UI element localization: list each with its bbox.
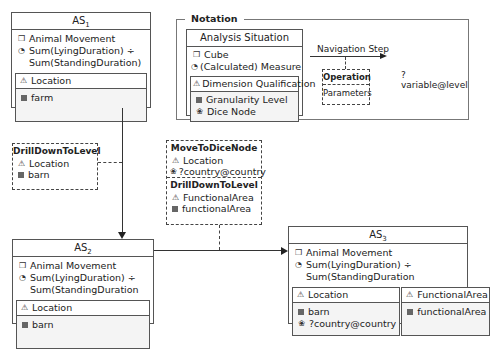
- cube-label: Animal Movement: [306, 247, 392, 259]
- operation-label: DrillDownToLevel: [167, 178, 261, 192]
- param-level: functionalArea: [182, 203, 251, 214]
- nav-step-label: Navigation Step: [317, 44, 389, 54]
- measure-icon: ◔: [191, 61, 198, 73]
- dimension-qualification: ⚠Location barn ❀?country@country: [292, 287, 400, 336]
- step-connector: [219, 225, 220, 250]
- granularity-icon: [172, 206, 178, 212]
- dimension-icon: ⚠: [295, 288, 306, 302]
- notation-as-box: Analysis Situation ❒Cube ◔(Calculated) M…: [186, 29, 303, 116]
- measure-label: Sum(LyingDuration) ÷: [306, 259, 412, 271]
- arrowhead: [281, 247, 288, 255]
- dice-label: Dice Node: [207, 106, 256, 118]
- dimension-icon: ⚠: [16, 158, 27, 169]
- navigation-step-drilldown: DrillDownToLevel ⚠Location barn: [12, 143, 98, 190]
- dimension-qualification: ⚠FunctionalArea functionalArea: [401, 287, 490, 336]
- cube-icon: ❒: [17, 260, 28, 272]
- measure-label: Sum(LyingDuration) ÷: [29, 45, 135, 57]
- analysis-situation-as3: AS3 ❒Animal Movement ◔Sum(LyingDuration)…: [288, 226, 468, 324]
- parameters-label: Parameters: [323, 85, 369, 101]
- dimension-name: FunctionalArea: [417, 288, 488, 302]
- granularity-level: functionalArea: [417, 306, 486, 318]
- measure-label-cont: Sum(StandingDuration: [30, 284, 139, 296]
- measure-icon: ◔: [16, 45, 27, 57]
- notation-step-box: Operation Parameters: [322, 69, 370, 105]
- operation-label: Operation: [323, 70, 369, 84]
- nav-arrow-as2-as3: [154, 250, 282, 251]
- dimension-name: Location: [31, 74, 71, 88]
- granularity-icon: [407, 309, 413, 315]
- cube-icon: ❒: [191, 49, 202, 61]
- navigation-step-multi: MoveToDiceNode ⚠Location ❀?country@count…: [166, 140, 262, 225]
- granularity-level: barn: [32, 319, 54, 331]
- granularity-icon: [22, 322, 28, 328]
- dimension-icon: ⚠: [170, 192, 181, 203]
- analysis-situation-as2: AS2 ❒Animal Movement ◔Sum(LyingDuration)…: [12, 239, 154, 324]
- arrowhead: [380, 53, 387, 59]
- measure-label: (Calculated) Measure: [200, 61, 301, 73]
- measure-label: Sum(LyingDuration) ÷: [30, 272, 136, 284]
- analysis-situation-as1: AS1 ❒Animal Movement ◔Sum(LyingDuration)…: [11, 12, 151, 108]
- dimension-icon: ⚠: [404, 288, 415, 302]
- cube-icon: ❒: [293, 247, 304, 259]
- operation-label: MoveToDiceNode: [167, 141, 261, 155]
- as-title: Analysis Situation: [187, 30, 302, 47]
- param-dimension: FunctionalArea: [183, 192, 254, 203]
- measure-icon: ◔: [293, 259, 304, 271]
- granularity-icon: [18, 172, 24, 178]
- cube-icon: ❒: [16, 33, 27, 45]
- step-connector: [98, 162, 122, 163]
- granularity-icon: [196, 97, 202, 103]
- granularity-level: farm: [31, 92, 53, 104]
- dimension-icon: ⚠: [193, 77, 200, 91]
- cube-label: Cube: [204, 49, 229, 61]
- granularity-icon: [298, 309, 304, 315]
- measure-icon: ◔: [17, 272, 28, 284]
- as1-title: AS1: [12, 13, 150, 30]
- param-dice-node: ?country@country: [179, 166, 266, 177]
- cube-label: Animal Movement: [29, 33, 115, 45]
- measure-label-cont: Sum(StandingDuration): [29, 57, 141, 69]
- measure-label-cont: Sum(StandingDuration: [306, 271, 415, 283]
- nav-arrow-as1-as2: [122, 108, 123, 236]
- granularity-icon: [21, 95, 27, 101]
- variable-label: ?variable@level: [401, 70, 468, 90]
- arrowhead: [118, 232, 126, 239]
- dimension-icon: ⚠: [170, 155, 181, 166]
- notation-legend: Notation Analysis Situation ❒Cube ◔(Calc…: [176, 19, 469, 120]
- dimension-icon: ⚠: [18, 74, 29, 88]
- dimension-label: Dimension Qualification: [202, 77, 315, 91]
- dimension-icon: ⚠: [19, 301, 30, 315]
- dimension-qualification: ⚠Location farm: [15, 73, 147, 122]
- dice-node: ?country@country: [309, 318, 396, 330]
- dimension-name: Location: [308, 288, 348, 302]
- dice-icon: ❀: [194, 106, 205, 118]
- connector: [345, 57, 346, 69]
- notation-title: Notation: [185, 13, 244, 24]
- dimension-qualification: ⚠Location barn: [16, 300, 150, 349]
- param-dimension: Location: [183, 155, 223, 166]
- param-level: barn: [28, 169, 50, 180]
- dice-icon: ❀: [170, 166, 177, 177]
- dimension-name: Location: [32, 301, 72, 315]
- dice-icon: ❀: [296, 318, 307, 330]
- cube-label: Animal Movement: [30, 260, 116, 272]
- granularity-level: barn: [308, 306, 330, 318]
- granularity-label: Granularity Level: [206, 94, 288, 106]
- param-dimension: Location: [29, 158, 69, 169]
- operation-label: DrillDownToLevel: [13, 144, 97, 158]
